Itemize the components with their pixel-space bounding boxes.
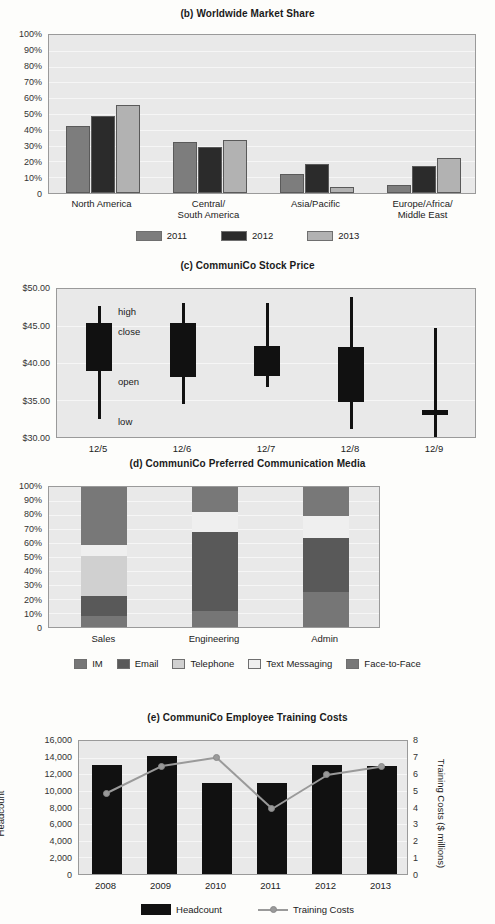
x-axis-tick-label: 2012 xyxy=(296,880,356,891)
y-axis-tick-label: 16,000 xyxy=(44,736,72,745)
legend-swatch xyxy=(346,659,359,669)
y-axis-tick-label: 4,000 xyxy=(49,837,72,846)
x-axis-tick-label: 12/9 xyxy=(394,443,474,454)
bar-2012-3 xyxy=(412,166,436,193)
x-axis-tick-label: Engineering xyxy=(154,633,274,644)
bar-2012-0 xyxy=(91,116,115,193)
segment-Text Messaging-Engineering xyxy=(192,512,238,532)
segment-Text Messaging-Admin xyxy=(303,516,349,537)
legend-label: Email xyxy=(135,658,159,669)
segment-Telephone-Sales xyxy=(81,556,127,596)
bar-2012-1 xyxy=(198,147,222,193)
legend-dot xyxy=(270,906,277,913)
y-axis-tick-label: 20% xyxy=(24,595,42,604)
y-axis-tick-label: 10% xyxy=(24,174,42,183)
data-point-training-costs-2011 xyxy=(268,805,275,812)
y2-axis-tick-label: 1 xyxy=(413,854,418,863)
legend-label: 2013 xyxy=(338,230,359,241)
gridline xyxy=(57,400,475,401)
legend-swatch xyxy=(136,231,162,241)
gridline xyxy=(49,51,475,52)
chart-preferred-communication-media: (d) CommuniCo Preferred Communication Me… xyxy=(0,458,495,650)
bar-2011-2 xyxy=(280,174,304,193)
y2-axis-tick-label: 4 xyxy=(413,803,418,812)
annotation-high: high xyxy=(118,306,136,317)
x-axis-tick-label: Europe/Africa/Middle East xyxy=(353,198,493,220)
bar-2013-3 xyxy=(437,158,461,193)
y-axis-tick-label: 70% xyxy=(24,524,42,533)
y-axis-tick-label: 6,000 xyxy=(49,820,72,829)
x-axis-tick-label: 2008 xyxy=(76,880,136,891)
y-axis-tick-label: 70% xyxy=(24,78,42,87)
x-axis-tick-label: 2011 xyxy=(241,880,301,891)
chart-e-y2-axis-title: Training Costs ($ millions) xyxy=(436,759,447,868)
gridline xyxy=(79,758,407,759)
candle-body-12/9 xyxy=(422,410,448,415)
legend-marker-training-costs xyxy=(258,904,288,915)
legend-swatch xyxy=(74,659,87,669)
y2-axis-tick-label: 5 xyxy=(413,786,418,795)
legend-swatch xyxy=(172,659,185,669)
legend-label: IM xyxy=(92,658,103,669)
x-axis-tick-label: 2010 xyxy=(186,880,246,891)
gridline xyxy=(49,114,475,115)
chart-communico-stock-price: (c) CommuniCo Stock Price $30.00$35.00$4… xyxy=(0,260,495,452)
chart-worldwide-market-share: (b) Worldwide Market Share 010%20%30%40%… xyxy=(0,8,495,220)
y-axis-tick-label: 50% xyxy=(24,553,42,562)
annotation-low: low xyxy=(118,416,132,427)
x-axis-tick-label: Admin xyxy=(265,633,385,644)
legend-label: 2012 xyxy=(252,230,273,241)
gridline xyxy=(79,791,407,792)
bar-headcount-2009 xyxy=(147,756,177,874)
y-axis-tick-label: 8,000 xyxy=(49,803,72,812)
segment-Email-Sales xyxy=(81,596,127,616)
y-axis-tick-label: 10% xyxy=(24,609,42,618)
gridline xyxy=(79,774,407,775)
y-axis-tick-label: 40% xyxy=(24,567,42,576)
gridline xyxy=(49,82,475,83)
segment-Text Messaging-Sales xyxy=(81,545,127,556)
stacked-bar-Sales xyxy=(81,486,127,627)
gridline xyxy=(49,67,475,68)
y-axis-tick-label: 60% xyxy=(24,538,42,547)
stacked-bar-Engineering xyxy=(192,486,238,627)
y-axis-tick-label: 20% xyxy=(24,158,42,167)
segment-IM-Engineering xyxy=(192,611,238,627)
annotation-open: open xyxy=(118,376,139,387)
chart-d-legend: IMEmailTelephoneText MessagingFace-to-Fa… xyxy=(0,658,495,669)
annotation-close: close xyxy=(118,326,140,337)
gridline xyxy=(79,857,407,858)
legend-item-training-costs: Training Costs xyxy=(258,904,354,915)
y-axis-tick-label: $50.00 xyxy=(22,284,50,293)
segment-Email-Engineering xyxy=(192,532,238,612)
legend-item: 2012 xyxy=(221,230,273,241)
gridline xyxy=(79,824,407,825)
chart-c-plot-area: $30.00$35.00$40.00$45.00$50.00 12/512/61… xyxy=(0,272,495,452)
bar-2013-2 xyxy=(330,187,354,193)
bar-2013-1 xyxy=(223,140,247,193)
y-axis-tick-label: 2,000 xyxy=(49,854,72,863)
legend-item: Email xyxy=(117,658,159,669)
x-axis-tick-label: 12/7 xyxy=(226,443,306,454)
chart-b-title: (b) Worldwide Market Share xyxy=(0,8,495,20)
y-axis-tick-label: 80% xyxy=(24,62,42,71)
candle-body-12/5 xyxy=(86,323,112,371)
x-axis-tick-label: 2009 xyxy=(131,880,191,891)
y-axis-tick-label: 90% xyxy=(24,496,42,505)
chart-e-title: (e) CommuniCo Employee Training Costs xyxy=(0,712,495,724)
legend-label: Telephone xyxy=(190,658,234,669)
y2-axis-tick-label: 2 xyxy=(413,837,418,846)
legend-label: Text Messaging xyxy=(266,658,332,669)
y-axis-tick-label: $40.00 xyxy=(22,359,50,368)
y-axis-tick-label: 0 xyxy=(37,624,42,633)
legend-swatch xyxy=(248,659,261,669)
chart-b-plot-area: 010%20%30%40%50%60%70%80%90%100% North A… xyxy=(0,20,495,220)
legend-item: IM xyxy=(74,658,103,669)
y-axis-tick-label: 30% xyxy=(24,581,42,590)
chart-e-legend: HeadcountTraining Costs xyxy=(0,904,495,915)
y2-axis-tick-label: 6 xyxy=(413,769,418,778)
y-axis-tick-label: 100% xyxy=(19,30,42,39)
y2-axis-tick-label: 7 xyxy=(413,752,418,761)
bar-2013-0 xyxy=(116,105,140,193)
y-axis-tick-label: 100% xyxy=(19,482,42,491)
